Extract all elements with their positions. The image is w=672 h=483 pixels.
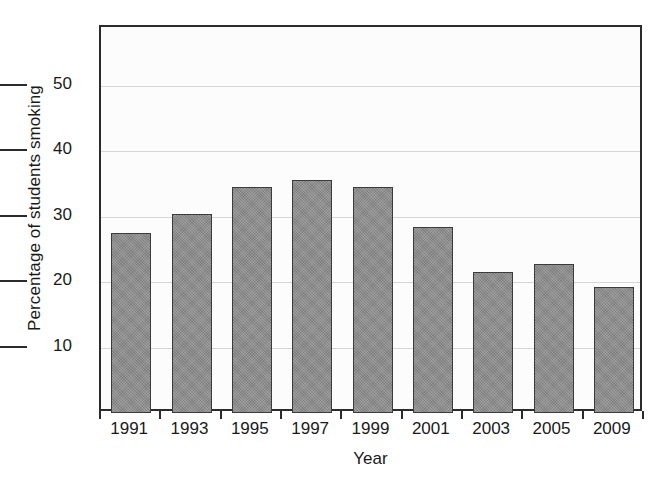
x-tick-label-1999: 1999 xyxy=(352,419,390,439)
x-tick-label-2005: 2005 xyxy=(533,419,571,439)
x-tick-mark-5 xyxy=(401,411,403,419)
y-tick-mark-20 xyxy=(0,280,27,282)
x-tick-label-2001: 2001 xyxy=(412,419,450,439)
bar-1991 xyxy=(111,233,151,413)
x-tick-label-2009: 2009 xyxy=(593,419,631,439)
y-tick-label-20: 20 xyxy=(28,270,72,290)
x-tick-mark-0 xyxy=(99,411,101,419)
x-tick-label-1991: 1991 xyxy=(110,419,148,439)
x-tick-label-2003: 2003 xyxy=(472,419,510,439)
x-tick-mark-4 xyxy=(340,411,342,419)
bar-2009 xyxy=(594,287,634,413)
y-tick-mark-30 xyxy=(0,215,27,217)
x-tick-mark-2 xyxy=(220,411,222,419)
x-axis-title: Year xyxy=(99,449,642,469)
bar-chart-figure: Percentage of students smoking 102030405… xyxy=(0,0,672,483)
y-tick-mark-50 xyxy=(0,84,27,86)
bar-1993 xyxy=(172,214,212,413)
bar-2003 xyxy=(473,272,513,413)
x-tick-mark-6 xyxy=(461,411,463,419)
y-tick-label-30: 30 xyxy=(28,205,72,225)
plot-area xyxy=(99,25,642,411)
bar-2001 xyxy=(413,227,453,413)
y-tick-mark-40 xyxy=(0,149,27,151)
gridline-40 xyxy=(101,151,640,152)
y-tick-label-10: 10 xyxy=(28,336,72,356)
bar-1995 xyxy=(232,187,272,413)
x-tick-mark-9 xyxy=(642,411,644,419)
x-tick-mark-1 xyxy=(159,411,161,419)
x-tick-label-1995: 1995 xyxy=(231,419,269,439)
gridline-50 xyxy=(101,86,640,87)
y-tick-mark-10 xyxy=(0,346,27,348)
bar-1999 xyxy=(353,187,393,413)
x-tick-label-1993: 1993 xyxy=(171,419,209,439)
x-tick-mark-3 xyxy=(280,411,282,419)
y-tick-label-40: 40 xyxy=(28,139,72,159)
x-tick-mark-7 xyxy=(521,411,523,419)
y-tick-label-50: 50 xyxy=(28,74,72,94)
x-tick-mark-8 xyxy=(582,411,584,419)
bar-2005 xyxy=(534,264,574,413)
bar-1997 xyxy=(292,180,332,413)
x-tick-label-1997: 1997 xyxy=(291,419,329,439)
